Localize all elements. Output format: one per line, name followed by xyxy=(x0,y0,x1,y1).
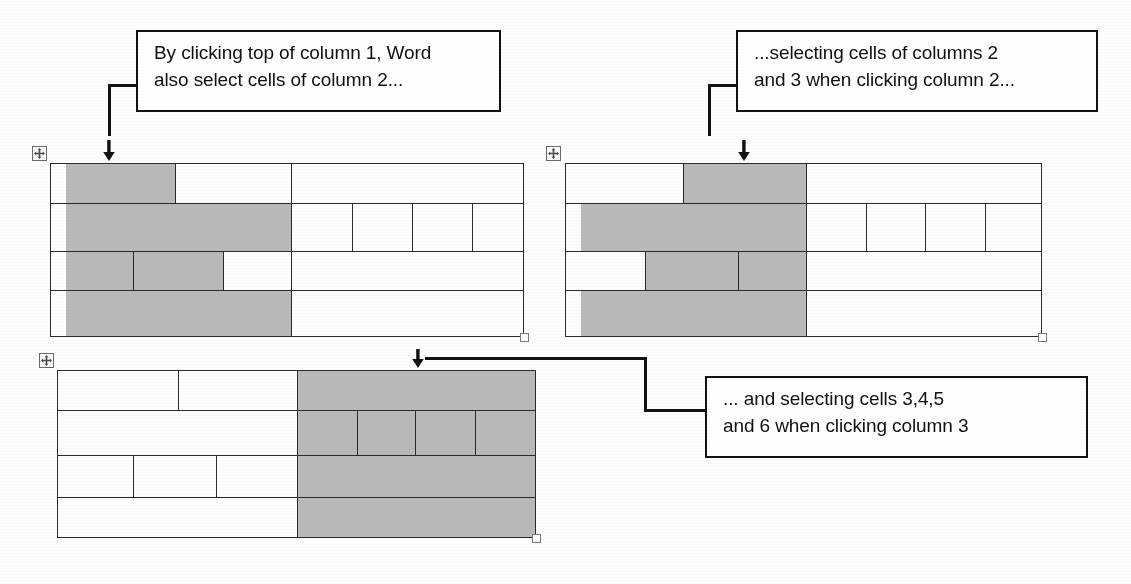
cell-divider xyxy=(683,163,684,203)
row-separator xyxy=(565,203,1042,204)
diagram-canvas: By clicking top of column 1, Word also s… xyxy=(0,0,1131,584)
cell-divider xyxy=(738,251,739,290)
row-separator xyxy=(565,290,1042,291)
cell-divider xyxy=(133,455,134,497)
callout-3-leader-vertical xyxy=(644,357,647,412)
table-outline xyxy=(565,163,1042,337)
column-divider-main xyxy=(297,370,298,538)
table-resize-handle[interactable] xyxy=(1038,333,1047,342)
row-separator xyxy=(565,251,1042,252)
cell-divider xyxy=(645,251,646,290)
callout-3: ... and selecting cells 3,4,5 and 6 when… xyxy=(705,376,1088,458)
cell-divider xyxy=(925,203,926,251)
column-divider-main xyxy=(806,163,807,337)
cell-divider xyxy=(178,370,179,410)
cell-divider xyxy=(985,203,986,251)
cell-divider xyxy=(415,410,416,455)
cell-divider xyxy=(866,203,867,251)
table-move-handle[interactable] xyxy=(39,353,54,368)
cell-divider xyxy=(216,455,217,497)
table-resize-handle[interactable] xyxy=(532,534,541,543)
cell-divider xyxy=(475,410,476,455)
cell-divider xyxy=(357,410,358,455)
callout-3-leader-horizontal-2 xyxy=(644,409,708,412)
table-3[interactable] xyxy=(0,0,600,584)
